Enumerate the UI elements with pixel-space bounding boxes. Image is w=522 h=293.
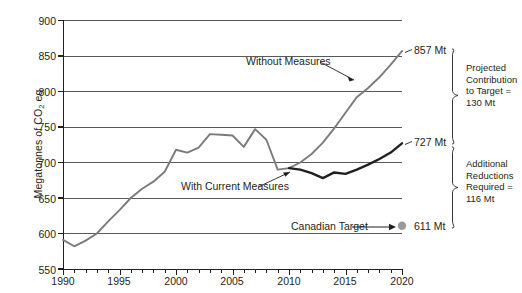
canadian-target-arrowhead xyxy=(389,224,396,230)
end-label-727: 727 Mt xyxy=(414,137,446,148)
series-line-with-current-measures xyxy=(289,143,402,178)
label-727-connector xyxy=(405,142,412,145)
bracket1-line1: Projected xyxy=(466,62,522,74)
bracket-label-projected-contribution: Projected Contribution to Target = 130 M… xyxy=(466,62,522,108)
annotation-with-current-measures: With Current Measures xyxy=(181,181,289,192)
label-857-connector xyxy=(405,50,412,53)
y-axis-ticks xyxy=(58,21,63,270)
bracket1-line4: 130 Mt xyxy=(466,97,522,109)
bracket2-line1: Additional xyxy=(466,158,522,170)
value-brackets xyxy=(452,49,458,228)
canadian-target-dot xyxy=(398,221,406,229)
bracket1-line2: Contribution xyxy=(466,74,522,86)
bracket2-line4: 116 Mt xyxy=(466,193,522,205)
end-label-611: 611 Mt xyxy=(414,221,445,232)
annotation-canadian-target: Canadian Target xyxy=(291,221,368,232)
bracket2-line3: Required = xyxy=(466,181,522,193)
bracket1-line3: to Target = xyxy=(466,85,522,97)
end-label-857: 857 Mt xyxy=(414,45,446,56)
emissions-projection-chart: Megatonnes of CO2 eq 900 850 800 750 700… xyxy=(0,0,522,293)
bracket-projected-contribution xyxy=(452,49,458,144)
annotation-leaders xyxy=(258,50,412,231)
bracket-additional-reductions xyxy=(452,147,458,228)
bracket2-line2: Reductions xyxy=(466,170,522,182)
annotation-without-measures: Without Measures xyxy=(246,56,331,67)
bracket-label-additional-reductions: Additional Reductions Required = 116 Mt xyxy=(466,158,522,204)
